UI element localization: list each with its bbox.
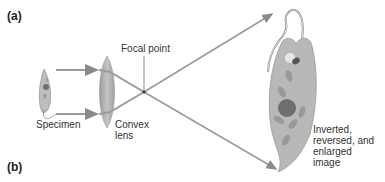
- convex-lens: [100, 56, 115, 128]
- image-description-label: Inverted, reversed, and enlarged image: [313, 124, 374, 168]
- image-label-line4: image: [313, 157, 374, 168]
- image-label-line1: Inverted,: [313, 124, 374, 135]
- focal-point-label: Focal point: [121, 43, 170, 54]
- convex-lens-label-line2: lens: [115, 130, 149, 141]
- image-label-line3: enlarged: [313, 146, 374, 157]
- specimen-label: Specimen: [36, 119, 80, 130]
- image-label-line2: reversed, and: [313, 135, 374, 146]
- convex-lens-label-line1: Convex: [115, 119, 149, 130]
- enlarged-image-organism: [268, 10, 316, 172]
- ray-to-image-bottom: [144, 92, 276, 169]
- convex-lens-label: Convex lens: [115, 119, 149, 141]
- specimen-organism: [39, 69, 60, 119]
- focal-point-dot: [143, 91, 146, 94]
